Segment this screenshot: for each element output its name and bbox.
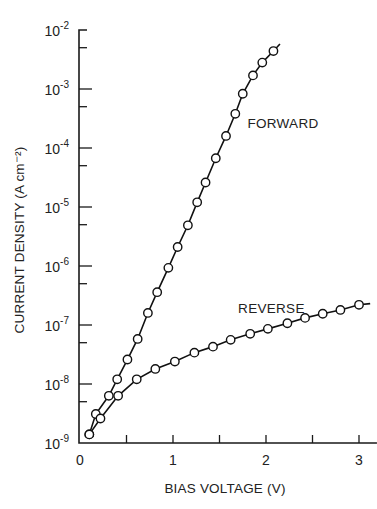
forward-data-point <box>133 335 141 343</box>
reverse-data-point <box>264 325 272 333</box>
y-axis-label: CURRENT DENSITY (A cm⁻²) <box>12 147 27 334</box>
x-axis-ticks: 0123 <box>76 435 363 468</box>
forward-data-point <box>144 309 152 317</box>
forward-data-point <box>231 110 239 118</box>
forward-data-point <box>184 221 192 229</box>
y-tick-exponent: -3 <box>60 79 69 90</box>
y-axis-ticks: 10-910-810-710-610-510-410-310-2 <box>45 20 92 452</box>
reverse-data-point <box>319 310 327 318</box>
reverse-label: REVERSE <box>238 301 305 316</box>
y-tick-label: 10-6 <box>45 256 70 275</box>
y-tick-exponent: -8 <box>60 374 69 385</box>
y-tick-base: 10 <box>45 82 61 98</box>
reverse-data-point <box>114 392 122 400</box>
reverse-data-point <box>171 357 179 365</box>
y-tick-base: 10 <box>45 200 61 216</box>
forward-data-point <box>269 47 277 55</box>
reverse-data-point <box>133 375 141 383</box>
y-tick-base: 10 <box>45 23 61 39</box>
forward-data-point <box>193 198 201 206</box>
y-tick-label: 10-5 <box>45 197 70 216</box>
x-tick-label: 0 <box>76 452 84 468</box>
forward-data-point <box>173 243 181 251</box>
y-tick-exponent: -2 <box>60 20 69 31</box>
forward-data-point <box>123 355 131 363</box>
forward-data-point <box>113 375 121 383</box>
y-tick-exponent: -9 <box>60 433 69 444</box>
y-tick-base: 10 <box>45 318 61 334</box>
y-tick-exponent: -4 <box>60 138 69 149</box>
y-tick-base: 10 <box>45 436 61 452</box>
reverse-data-point <box>283 319 291 327</box>
forward-data-point <box>258 58 266 66</box>
y-tick-exponent: -5 <box>60 197 69 208</box>
forward-data-point <box>105 392 113 400</box>
reverse-data-point <box>96 414 104 422</box>
reverse-data-point <box>85 430 93 438</box>
chart: 0123 10-910-810-710-610-510-410-310-2 FO… <box>0 0 377 509</box>
y-tick-exponent: -6 <box>60 256 69 267</box>
series-layer: FORWARDREVERSE <box>85 44 370 439</box>
axes <box>79 30 377 443</box>
forward-data-point <box>249 71 257 79</box>
y-tick-label: 10-7 <box>45 315 70 334</box>
forward-data-point <box>164 264 172 272</box>
reverse-data-point <box>151 365 159 373</box>
x-tick-label: 1 <box>169 452 177 468</box>
y-tick-label: 10-2 <box>45 20 70 39</box>
forward-label: FORWARD <box>247 116 318 131</box>
y-tick-label: 10-4 <box>45 138 70 157</box>
reverse-data-point <box>190 348 198 356</box>
y-tick-exponent: -7 <box>60 315 69 326</box>
x-tick-label: 2 <box>262 452 270 468</box>
y-tick-label: 10-8 <box>45 374 70 393</box>
forward-data-point <box>201 178 209 186</box>
y-tick-label: 10-9 <box>45 433 70 452</box>
series-reverse: REVERSE <box>85 301 370 439</box>
forward-data-point <box>239 90 247 98</box>
reverse-data-point <box>355 301 363 309</box>
reverse-data-point <box>336 306 344 314</box>
y-tick-base: 10 <box>45 141 61 157</box>
reverse-data-point <box>246 330 254 338</box>
y-tick-label: 10-3 <box>45 79 70 98</box>
reverse-data-point <box>226 336 234 344</box>
y-tick-base: 10 <box>45 259 61 275</box>
x-tick-label: 3 <box>355 452 363 468</box>
forward-data-point <box>212 154 220 162</box>
y-tick-base: 10 <box>45 377 61 393</box>
forward-data-point <box>222 132 230 140</box>
axis-lines <box>79 30 377 443</box>
x-axis-label: BIAS VOLTAGE (V) <box>164 481 285 496</box>
series-forward: FORWARD <box>85 44 318 439</box>
reverse-line <box>89 304 370 435</box>
reverse-data-point <box>209 342 217 350</box>
forward-data-point <box>153 288 161 296</box>
